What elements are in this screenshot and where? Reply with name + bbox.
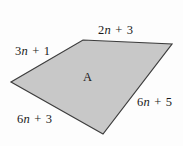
side-label-upper-left-operator: + bbox=[31, 44, 40, 58]
side-label-upper-left-constant: 1 bbox=[44, 44, 50, 58]
side-label-lower-left: 6n + 3 bbox=[17, 113, 52, 126]
side-label-lower-left-operator: + bbox=[33, 112, 42, 126]
geometry-figure: A 2n + 3 3n + 1 6n + 5 6n + 3 bbox=[0, 0, 183, 146]
side-label-lower-right-operator: + bbox=[153, 95, 162, 109]
side-label-lower-right-variable: n bbox=[143, 95, 149, 109]
side-label-lower-right-constant: 5 bbox=[166, 95, 172, 109]
side-label-lower-right: 6n + 5 bbox=[137, 96, 172, 109]
side-label-upper-left-variable: n bbox=[21, 44, 27, 58]
side-label-top-constant: 3 bbox=[127, 23, 133, 37]
side-label-upper-left: 3n + 1 bbox=[15, 45, 50, 58]
side-label-top-operator: + bbox=[114, 23, 123, 37]
shape-interior-label: A bbox=[83, 71, 92, 84]
side-label-lower-left-constant: 3 bbox=[46, 112, 52, 126]
side-label-top: 2n + 3 bbox=[98, 24, 133, 37]
side-label-lower-left-variable: n bbox=[23, 112, 29, 126]
side-label-top-variable: n bbox=[104, 23, 110, 37]
